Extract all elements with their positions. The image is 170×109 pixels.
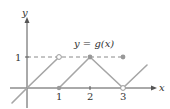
- x-axis-arrow-icon: [151, 86, 157, 91]
- x-tick-label-2: 2: [87, 91, 93, 102]
- curve-piece-1: [12, 59, 57, 103]
- y-tick-label-1: 1: [15, 52, 21, 63]
- function-label: y = g(x): [73, 38, 114, 49]
- curve-piece-3: [125, 65, 148, 87]
- filled-dot-2-1: [88, 55, 93, 60]
- y-axis-label: y: [21, 7, 28, 18]
- filled-dot-3-1: [121, 55, 126, 60]
- x-tick-label-3: 3: [120, 91, 126, 102]
- graph-of-g: y x 1 1 2 3 y = g(x): [0, 0, 170, 109]
- open-circle-3-0: [121, 86, 126, 91]
- x-tick-label-1: 1: [56, 91, 62, 102]
- filled-dot-1-0: [57, 86, 61, 90]
- y-axis: [25, 17, 30, 108]
- x-axis-label: x: [159, 82, 165, 93]
- g-curve: [12, 57, 147, 103]
- x-axis: [10, 86, 157, 91]
- open-circle-1-1: [57, 55, 62, 60]
- curve-piece-2: [59, 57, 122, 88]
